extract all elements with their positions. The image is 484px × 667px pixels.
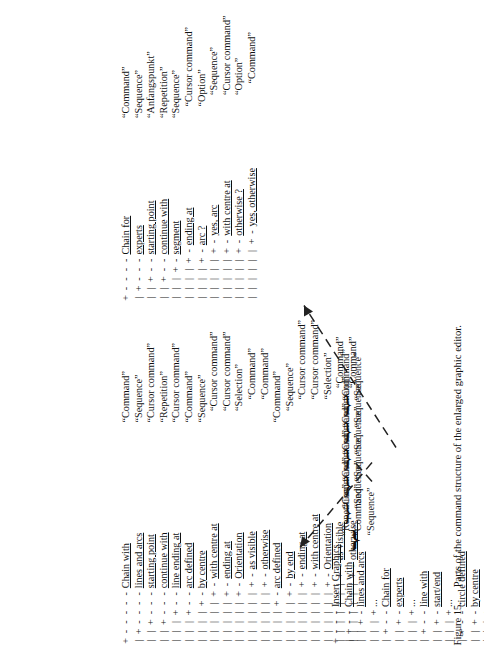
figure-caption: Figure 15. Parts of the command structur… [452, 325, 463, 645]
figure-caption-text: Parts of the command structure of the en… [452, 325, 463, 587]
figure-15: +-----Chain with|+----lines and arcs||+-… [0, 0, 484, 667]
connector-arrows [0, 0, 484, 667]
arrow-to-chain-with [300, 462, 372, 547]
figure-number: Figure 15. [452, 601, 463, 645]
arrow-to-chain-for-experts [304, 305, 396, 447]
scanned-page: +-----Chain with|+----lines and arcs||+-… [0, 0, 484, 667]
